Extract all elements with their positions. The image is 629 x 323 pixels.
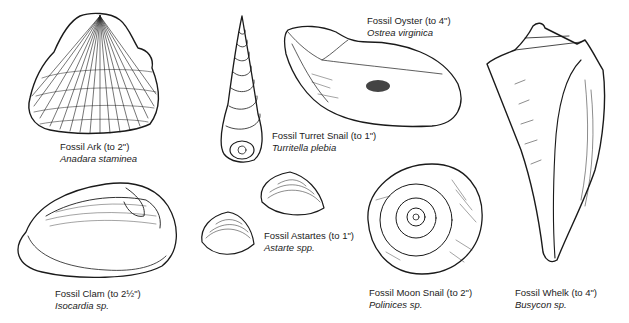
moon-label: Fossil Moon Snail (to 2") Polinices sp. (369, 287, 472, 311)
whelk-scientific-name: Busycon sp. (515, 299, 597, 311)
moon-snail-icon (356, 160, 486, 278)
clam-scientific-name: Isocardia sp. (55, 300, 141, 312)
clam-shell-icon (6, 176, 186, 280)
clam-label: Fossil Clam (to 2½") Isocardia sp. (55, 288, 141, 312)
astartes-label: Fossil Astartes (to 1") Astarte spp. (264, 230, 354, 254)
astartes-common-name: Fossil Astartes (to 1") (264, 230, 354, 242)
whelk-common-name: Fossil Whelk (to 4") (515, 287, 597, 299)
turret-common-name: Fossil Turret Snail (to 1") (272, 130, 376, 142)
oyster-common-name: Fossil Oyster (to 4") (367, 15, 451, 27)
ark-shell-icon (20, 8, 170, 138)
clam-common-name: Fossil Clam (to 2½") (55, 288, 141, 300)
oyster-shell-icon (282, 24, 466, 128)
moon-common-name: Fossil Moon Snail (to 2") (369, 287, 472, 299)
ark-scientific-name: Anadara staminea (60, 153, 137, 165)
moon-scientific-name: Polinices sp. (369, 299, 472, 311)
turret-scientific-name: Turritella plebia (272, 142, 376, 154)
fossil-shells-plate: Fossil Ark (to 2") Anadara staminea Foss… (0, 0, 629, 323)
astartes-scientific-name: Astarte spp. (264, 242, 354, 254)
oyster-label: Fossil Oyster (to 4") Ostrea virginica (367, 15, 451, 39)
ark-label: Fossil Ark (to 2") Anadara staminea (60, 141, 137, 165)
oyster-scientific-name: Ostrea virginica (367, 27, 451, 39)
turret-label: Fossil Turret Snail (to 1") Turritella p… (272, 130, 376, 154)
whelk-label: Fossil Whelk (to 4") Busycon sp. (515, 287, 597, 311)
ark-common-name: Fossil Ark (to 2") (60, 141, 137, 153)
turret-snail-icon (212, 14, 272, 164)
whelk-shell-icon (485, 20, 615, 265)
